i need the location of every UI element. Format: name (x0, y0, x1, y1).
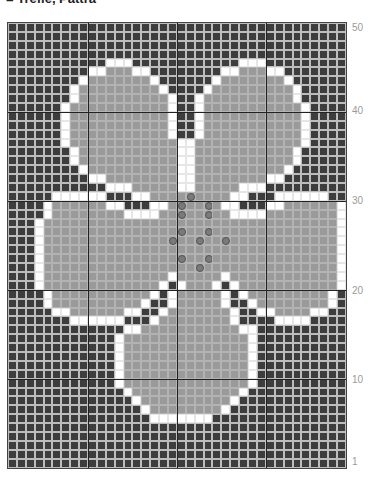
chart-cell-outline (141, 299, 150, 308)
chart-cell-background (124, 414, 133, 423)
chart-cell-outline (168, 94, 177, 103)
chart-cell-background (26, 59, 35, 68)
chart-cell-background (26, 272, 35, 281)
chart-cell-fill (284, 272, 293, 281)
chart-cell-fill (124, 94, 133, 103)
chart-cell-background (26, 165, 35, 174)
chart-cell-background (168, 432, 177, 441)
chart-cell-background (61, 388, 70, 397)
chart-cell-fill (159, 192, 168, 201)
chart-cell-background (239, 423, 248, 432)
chart-cell-fill (204, 103, 213, 112)
chart-cell-background (115, 441, 124, 450)
chart-cell-fill (132, 334, 141, 343)
chart-cell-fill (221, 263, 230, 272)
chart-cell-background (8, 23, 17, 32)
chart-cell-background (26, 459, 35, 468)
chart-cell-fill (159, 130, 168, 139)
chart-cell-background (35, 112, 44, 121)
chart-cell-outline (293, 192, 302, 201)
chart-cell-fill (61, 227, 70, 236)
chart-cell-background (70, 76, 79, 85)
chart-cell-background (106, 370, 115, 379)
chart-cell-fill (168, 201, 177, 210)
chart-cell-background (106, 414, 115, 423)
chart-cell-fill (239, 254, 248, 263)
chart-cell-fill (275, 112, 284, 121)
chart-cell-background (301, 23, 310, 32)
chart-cell-fill (97, 219, 106, 228)
chart-cell-fill (132, 245, 141, 254)
chart-cell-fill (141, 112, 150, 121)
chart-cell-background (88, 183, 97, 192)
chart-cell-fill (44, 281, 53, 290)
chart-cell-background (8, 334, 17, 343)
chart-cell-background (17, 139, 26, 148)
chart-cell-fill (204, 174, 213, 183)
chart-cell-background (319, 432, 328, 441)
chart-cell-outline (239, 59, 248, 68)
chart-cell-fill (70, 236, 79, 245)
chart-cell-fill (177, 388, 186, 397)
chart-cell-fill (97, 85, 106, 94)
chart-cell-background (61, 325, 70, 334)
chart-cell-fill (159, 121, 168, 130)
chart-cell-background (293, 343, 302, 352)
chart-cell-fill (284, 219, 293, 228)
chart-cell-background (44, 423, 53, 432)
chart-cell-fill (239, 174, 248, 183)
chart-cell-background (35, 59, 44, 68)
chart-cell-background (337, 414, 346, 423)
chart-cell-background (337, 41, 346, 50)
chart-cell-background (177, 67, 186, 76)
chart-cell-background (17, 227, 26, 236)
chart-cell-fill (115, 174, 124, 183)
chart-cell-background (79, 405, 88, 414)
chart-cell-fill (221, 139, 230, 148)
chart-cell-outline (168, 290, 177, 299)
row-label-50: 50 (352, 22, 363, 33)
chart-cell-background (115, 41, 124, 50)
chart-cell-outline (328, 299, 337, 308)
chart-cell-background (8, 183, 17, 192)
chart-cell-fill (150, 121, 159, 130)
chart-cell-background (17, 254, 26, 263)
chart-cell-outline (52, 192, 61, 201)
chart-cell-background (17, 361, 26, 370)
chart-cell-fill (79, 272, 88, 281)
chart-cell-fill (284, 147, 293, 156)
chart-cell-background (97, 183, 106, 192)
chart-cell-fill (293, 139, 302, 148)
chart-cell-fill (79, 245, 88, 254)
chart-cell-fill (248, 272, 257, 281)
chart-cell-background (106, 450, 115, 459)
chart-cell-background (257, 450, 266, 459)
chart-cell-outline (52, 308, 61, 317)
chart-cell-background (124, 459, 133, 468)
chart-cell-fill (106, 76, 115, 85)
chart-cell-background (8, 59, 17, 68)
chart-cell-fill (195, 165, 204, 174)
chart-cell-background (310, 334, 319, 343)
chart-cell-background (293, 174, 302, 183)
chart-cell-background (17, 441, 26, 450)
chart-cell-outline (115, 361, 124, 370)
chart-cell-fill (221, 396, 230, 405)
chart-cell-background (310, 76, 319, 85)
chart-cell-background (52, 325, 61, 334)
chart-cell-background (239, 201, 248, 210)
chart-cell-fill (61, 281, 70, 290)
chart-cell-outline (337, 219, 346, 228)
chart-cell-background (8, 192, 17, 201)
chart-cell-background (141, 50, 150, 59)
chart-cell-background (319, 147, 328, 156)
chart-cell-background (132, 459, 141, 468)
chart-cell-fill (284, 254, 293, 263)
chart-cell-fill (106, 103, 115, 112)
chart-cell-background (186, 103, 195, 112)
chart-cell-background (337, 334, 346, 343)
chart-cell-fill (275, 281, 284, 290)
chart-cell-outline (159, 414, 168, 423)
chart-cell-fill (239, 343, 248, 352)
chart-cell-fill (132, 139, 141, 148)
